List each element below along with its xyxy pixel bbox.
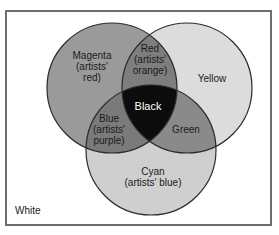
yellow-label: Yellow (198, 73, 227, 84)
magenta-label: Magenta (artists' red) (73, 50, 112, 83)
blue-label: Blue (artists' purple) (93, 113, 125, 146)
cyan-label: Cyan (artists' blue) (125, 166, 182, 188)
black-label: Black (135, 101, 162, 112)
white-label: White (15, 205, 41, 216)
green-label: Green (172, 124, 200, 135)
venn-diagram (0, 0, 279, 235)
red-label: Red (artists' orange) (133, 43, 167, 76)
